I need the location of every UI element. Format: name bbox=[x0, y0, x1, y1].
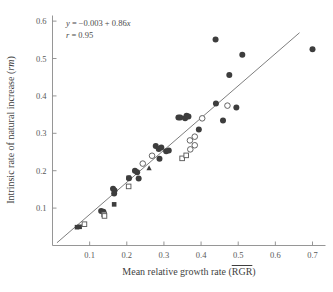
series-open-squares bbox=[82, 153, 188, 226]
data-point bbox=[239, 52, 245, 58]
data-point bbox=[126, 176, 131, 181]
x-tick-label: 0.5 bbox=[233, 250, 244, 260]
y-tick-label: 0.1 bbox=[36, 203, 47, 213]
correlation-coefficient-text: r = 0.95 bbox=[66, 30, 93, 40]
data-point bbox=[192, 142, 198, 148]
data-point bbox=[192, 134, 198, 140]
data-point bbox=[184, 153, 189, 158]
data-point bbox=[213, 100, 219, 106]
x-axis-title: Mean relative growth rate (RGR) bbox=[122, 266, 255, 278]
scatter-plot-figure: 0.10.20.30.40.50.60.7 0.10.20.30.40.50.6… bbox=[0, 0, 333, 292]
data-point bbox=[77, 225, 82, 230]
data-point bbox=[112, 202, 117, 207]
data-point bbox=[233, 105, 239, 111]
regression-line-group bbox=[57, 33, 300, 243]
data-point bbox=[102, 214, 107, 219]
data-point bbox=[188, 147, 194, 153]
data-point bbox=[111, 191, 117, 197]
regression-equation-text: y = −0.003 + 0.86x bbox=[65, 18, 131, 28]
x-tick-label: 0.6 bbox=[270, 250, 281, 260]
data-point bbox=[149, 153, 155, 159]
y-tick-label: 0.5 bbox=[36, 54, 47, 64]
data-point bbox=[134, 169, 140, 175]
data-point bbox=[225, 103, 231, 109]
data-point bbox=[140, 161, 146, 167]
y-tick-label: 0.4 bbox=[36, 91, 47, 101]
annotation-group: y = −0.003 + 0.86x r = 0.95 bbox=[65, 18, 131, 40]
data-point bbox=[220, 118, 226, 124]
y-tick-label: 0.2 bbox=[36, 166, 47, 176]
x-tick-label: 0.1 bbox=[84, 250, 95, 260]
data-point bbox=[226, 72, 232, 78]
y-tick-label: 0.6 bbox=[36, 16, 47, 26]
data-point bbox=[187, 138, 193, 144]
y-tick-label: 0.3 bbox=[36, 128, 47, 138]
data-point bbox=[196, 127, 202, 133]
data-point bbox=[158, 145, 164, 151]
data-point bbox=[146, 165, 151, 170]
data-point bbox=[156, 156, 162, 162]
data-point bbox=[185, 113, 191, 119]
data-point bbox=[310, 46, 316, 52]
data-point bbox=[126, 184, 131, 189]
x-tick-label: 0.7 bbox=[307, 250, 318, 260]
x-tick-label: 0.3 bbox=[159, 250, 170, 260]
y-axis-title: Intrinsic rate of natural increase (rm) bbox=[5, 56, 17, 203]
plot-canvas: 0.10.20.30.40.50.60.7 0.10.20.30.40.50.6… bbox=[0, 0, 333, 292]
data-point bbox=[199, 116, 205, 122]
x-tick-label: 0.4 bbox=[196, 250, 207, 260]
x-tick-label: 0.2 bbox=[121, 250, 132, 260]
data-point bbox=[166, 148, 172, 154]
regression-line bbox=[57, 33, 300, 243]
series-filled-triangles bbox=[146, 165, 151, 170]
data-points-layer bbox=[75, 36, 316, 229]
data-point bbox=[136, 176, 142, 182]
data-point bbox=[82, 222, 87, 227]
y-axis-ticks: 0.10.20.30.40.50.6 bbox=[36, 16, 57, 213]
data-point bbox=[213, 36, 219, 42]
x-axis-ticks: 0.10.20.30.40.50.60.7 bbox=[84, 242, 317, 260]
